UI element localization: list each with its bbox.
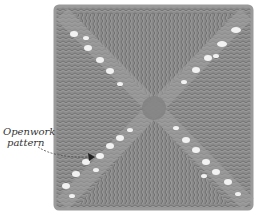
label-line-1: Openwork (3, 126, 55, 137)
label-line-2: pattern (3, 137, 55, 148)
openwork-pattern-label: Openwork pattern (3, 126, 55, 148)
swatch-illustration (0, 0, 261, 221)
knitted-swatch-photo: Openwork pattern (0, 0, 261, 221)
